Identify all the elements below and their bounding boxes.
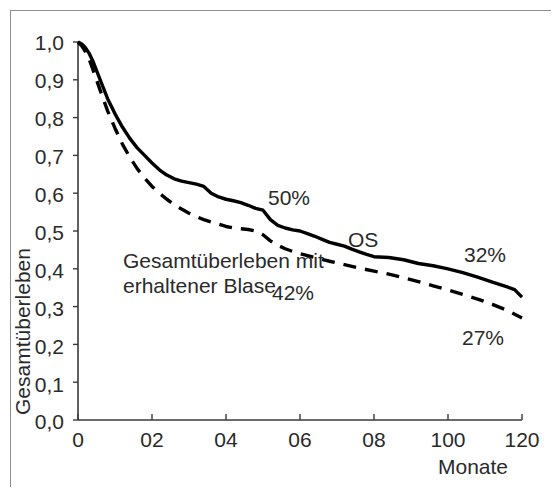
y-tick-label-0-8: 0,8 [18, 108, 64, 129]
y-tick-label-0-6: 0,6 [18, 184, 64, 205]
annotation-os-series-label: OS [348, 228, 378, 251]
x-axis-title: Monate [438, 456, 508, 477]
y-tick-label-0-5: 0,5 [18, 222, 64, 243]
y-tick-label-0-9: 0,9 [18, 70, 64, 91]
x-tick-label-04: 04 [196, 429, 256, 450]
annotation-50-percent: 50% [268, 186, 310, 209]
x-tick-label-02: 02 [122, 429, 182, 450]
x-axis-ticks [78, 414, 522, 420]
y-tick-label-0-7: 0,7 [18, 146, 64, 167]
x-tick-label-06: 06 [270, 429, 330, 450]
y-tick-label-1-0: 1,0 [18, 32, 64, 53]
chart-figure: 1,0 0,9 0,8 0,7 0,6 0,5 0,4 0,3 0,2 0,1 … [0, 0, 552, 488]
x-tick-label-100: 100 [418, 429, 478, 450]
x-tick-label-0: 0 [48, 429, 108, 450]
annotation-bladder-preserved-line2: erhaltener Blase [123, 273, 276, 298]
x-tick-label-08: 08 [344, 429, 404, 450]
annotation-42-percent: 42% [272, 281, 314, 304]
y-axis-title: Gesamtüberleben [12, 248, 33, 415]
annotation-27-percent: 27% [462, 326, 504, 349]
x-tick-label-120: 120 [492, 429, 552, 450]
annotation-32-percent: 32% [464, 243, 506, 266]
annotation-bladder-preserved-line1: Gesamtüberleben mit [123, 248, 324, 273]
